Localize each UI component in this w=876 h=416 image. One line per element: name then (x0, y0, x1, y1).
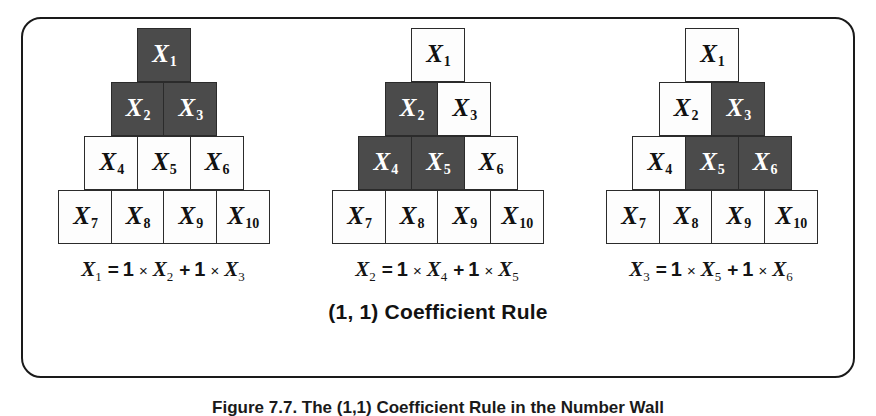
equation-term1-subscript: 4 (441, 269, 448, 285)
cell-x1[interactable]: X1 (685, 28, 739, 82)
cell-x3[interactable]: X3 (437, 82, 491, 136)
pyramid-row: X2X3 (330, 82, 546, 136)
cell-subscript: 8 (418, 217, 425, 231)
equation-term2-variable: X (224, 257, 238, 282)
equation-lhs-subscript: 2 (369, 269, 376, 285)
equation-times-1: × (687, 262, 696, 279)
pyramid-panel-1: X1X2X3X4X5X6X7X8X9X10X1=1×X2+1×X3 (30, 28, 298, 282)
cell-x10[interactable]: X10 (764, 190, 818, 244)
equation-term2-subscript: 3 (238, 269, 245, 285)
equation-term1-variable: X (153, 257, 167, 282)
pyramid-2: X1X2X3X4X5X6X7X8X9X10 (330, 28, 546, 246)
cell-variable: X (178, 95, 195, 120)
cell-variable: X (426, 149, 443, 174)
pyramid-panel-3: X1X2X3X4X5X6X7X8X9X10X3=1×X5+1×X6 (578, 28, 846, 282)
figure-root: X1X2X3X4X5X6X7X8X9X10X1=1×X2+1×X3X1X2X3X… (0, 0, 876, 416)
cell-variable: X (426, 41, 443, 66)
cell-subscript: 5 (718, 163, 725, 177)
cell-variable: X (400, 95, 417, 120)
cell-subscript: 3 (744, 109, 751, 123)
equation-times-1: × (413, 262, 422, 279)
cell-subscript: 10 (245, 217, 259, 231)
rule-caption: (1, 1) Coefficient Rule (0, 300, 876, 324)
cell-subscript: 3 (196, 109, 203, 123)
pyramid-row: X4X5X6 (56, 136, 272, 190)
cell-variable: X (726, 203, 743, 228)
cell-x8[interactable]: X8 (385, 190, 439, 244)
cell-x6[interactable]: X6 (190, 136, 244, 190)
equation-coefficient-2: 1 (194, 258, 205, 281)
pyramid-row: X1 (330, 28, 546, 82)
cell-subscript: 7 (91, 217, 98, 231)
cell-subscript: 1 (170, 55, 177, 69)
equation-equals-sign: = (656, 259, 667, 281)
pyramid-row: X4X5X6 (330, 136, 546, 190)
cell-variable: X (674, 203, 691, 228)
cell-subscript: 1 (444, 55, 451, 69)
cell-variable: X (753, 149, 770, 174)
cell-x3-highlighted[interactable]: X3 (711, 82, 765, 136)
equation-1: X1=1×X2+1×X3 (81, 257, 247, 282)
cell-subscript: 2 (418, 109, 425, 123)
cell-x5-highlighted[interactable]: X5 (685, 136, 739, 190)
cell-variable: X (452, 95, 469, 120)
pyramid-row: X7X8X9X10 (604, 190, 820, 244)
cell-x1-highlighted[interactable]: X1 (137, 28, 191, 82)
cell-x2-highlighted[interactable]: X2 (111, 82, 165, 136)
cell-x2[interactable]: X2 (659, 82, 713, 136)
cell-variable: X (126, 203, 143, 228)
cell-variable: X (700, 41, 717, 66)
equation-lhs-subscript: 1 (95, 269, 102, 285)
equation-lhs-variable: X (355, 257, 369, 282)
cell-x5[interactable]: X5 (137, 136, 191, 190)
cell-subscript: 3 (470, 109, 477, 123)
cell-x4[interactable]: X4 (632, 136, 686, 190)
cell-x4-highlighted[interactable]: X4 (358, 136, 412, 190)
equation-times-1: × (139, 262, 148, 279)
cell-x2-highlighted[interactable]: X2 (385, 82, 439, 136)
cell-x7[interactable]: X7 (606, 190, 660, 244)
cell-x5-highlighted[interactable]: X5 (411, 136, 465, 190)
cell-x1[interactable]: X1 (411, 28, 465, 82)
cell-variable: X (648, 149, 665, 174)
cell-x7[interactable]: X7 (332, 190, 386, 244)
equation-2: X2=1×X4+1×X5 (355, 257, 521, 282)
equation-coefficient-1: 1 (397, 258, 408, 281)
equation-lhs-variable: X (629, 257, 643, 282)
cell-x7[interactable]: X7 (58, 190, 112, 244)
cell-variable: X (228, 203, 245, 228)
cell-x6-highlighted[interactable]: X6 (738, 136, 792, 190)
cell-x4[interactable]: X4 (84, 136, 138, 190)
equation-plus-sign: + (727, 259, 738, 281)
equation-lhs-subscript: 3 (643, 269, 650, 285)
pyramid-row: X1 (56, 28, 272, 82)
cell-variable: X (726, 95, 743, 120)
cell-x9[interactable]: X9 (711, 190, 765, 244)
cell-x10[interactable]: X10 (490, 190, 544, 244)
cell-subscript: 9 (196, 217, 203, 231)
equation-equals-sign: = (108, 259, 119, 281)
equation-term2-subscript: 6 (786, 269, 793, 285)
equation-coefficient-1: 1 (671, 258, 682, 281)
figure-bottom-caption: Figure 7.7. The (1,1) Coefficient Rule i… (0, 398, 876, 416)
cell-x8[interactable]: X8 (111, 190, 165, 244)
cell-x6[interactable]: X6 (464, 136, 518, 190)
cell-subscript: 7 (639, 217, 646, 231)
cell-variable: X (152, 149, 169, 174)
cell-x10[interactable]: X10 (216, 190, 270, 244)
cell-subscript: 6 (496, 163, 503, 177)
cell-subscript: 4 (117, 163, 124, 177)
cell-x3-highlighted[interactable]: X3 (163, 82, 217, 136)
equation-3: X3=1×X5+1×X6 (629, 257, 795, 282)
cell-x8[interactable]: X8 (659, 190, 713, 244)
cell-subscript: 6 (222, 163, 229, 177)
cell-x9[interactable]: X9 (437, 190, 491, 244)
cell-subscript: 9 (744, 217, 751, 231)
equation-term1-subscript: 2 (167, 269, 174, 285)
cell-variable: X (674, 95, 691, 120)
cell-x9[interactable]: X9 (163, 190, 217, 244)
equation-term1-subscript: 5 (715, 269, 722, 285)
pyramid-row: X4X5X6 (604, 136, 820, 190)
pyramid-row: X7X8X9X10 (56, 190, 272, 244)
equation-term1-variable: X (701, 257, 715, 282)
